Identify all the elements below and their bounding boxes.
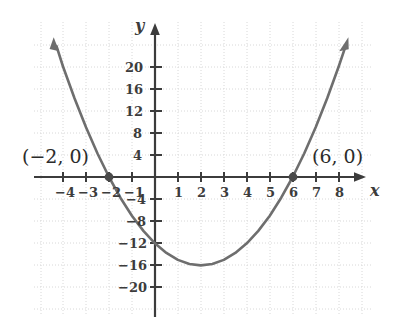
point-6-0 (289, 173, 298, 182)
y-tick-label-20: 20 (125, 61, 143, 74)
y-tick-label--4: −4 (126, 193, 146, 206)
x-tick-label-2: 2 (197, 186, 206, 199)
x-tick-label--4: −4 (55, 186, 75, 199)
parabola-graph-figure: −4 −3 −2 −1 1 2 3 4 5 6 7 8 20 16 12 8 4… (0, 0, 393, 334)
x-tick-label-7: 7 (312, 186, 321, 199)
x-tick-label--3: −3 (78, 186, 98, 199)
y-tick-label--20: −20 (118, 281, 147, 294)
y-tick-label--12: −12 (118, 237, 147, 250)
y-axis-label: y (135, 18, 144, 34)
annotation-right-root: (6, 0) (312, 147, 363, 166)
annotation-left-root: (−2, 0) (22, 147, 89, 166)
y-tick-label-8: 8 (133, 127, 142, 140)
x-tick-label-5: 5 (266, 186, 275, 199)
point-minus2-0 (105, 173, 114, 182)
x-tick-label-6: 6 (289, 186, 298, 199)
x-tick-label-4: 4 (243, 186, 252, 199)
x-axis-label: x (370, 183, 380, 199)
y-tick-label-16: 16 (125, 83, 143, 96)
graph-canvas (0, 0, 393, 334)
y-tick-label-4: 4 (133, 149, 142, 162)
grid-vertical-lines (41, 22, 362, 316)
x-tick-label-3: 3 (220, 186, 229, 199)
y-tick-label--16: −16 (118, 259, 147, 272)
y-tick-label-12: 12 (125, 105, 143, 118)
x-tick-label-8: 8 (335, 186, 344, 199)
x-tick-label-1: 1 (174, 186, 183, 199)
y-tick-label--8: −8 (126, 215, 146, 228)
parabola-curve (50, 37, 349, 265)
x-tick-label--2: −2 (101, 186, 121, 199)
